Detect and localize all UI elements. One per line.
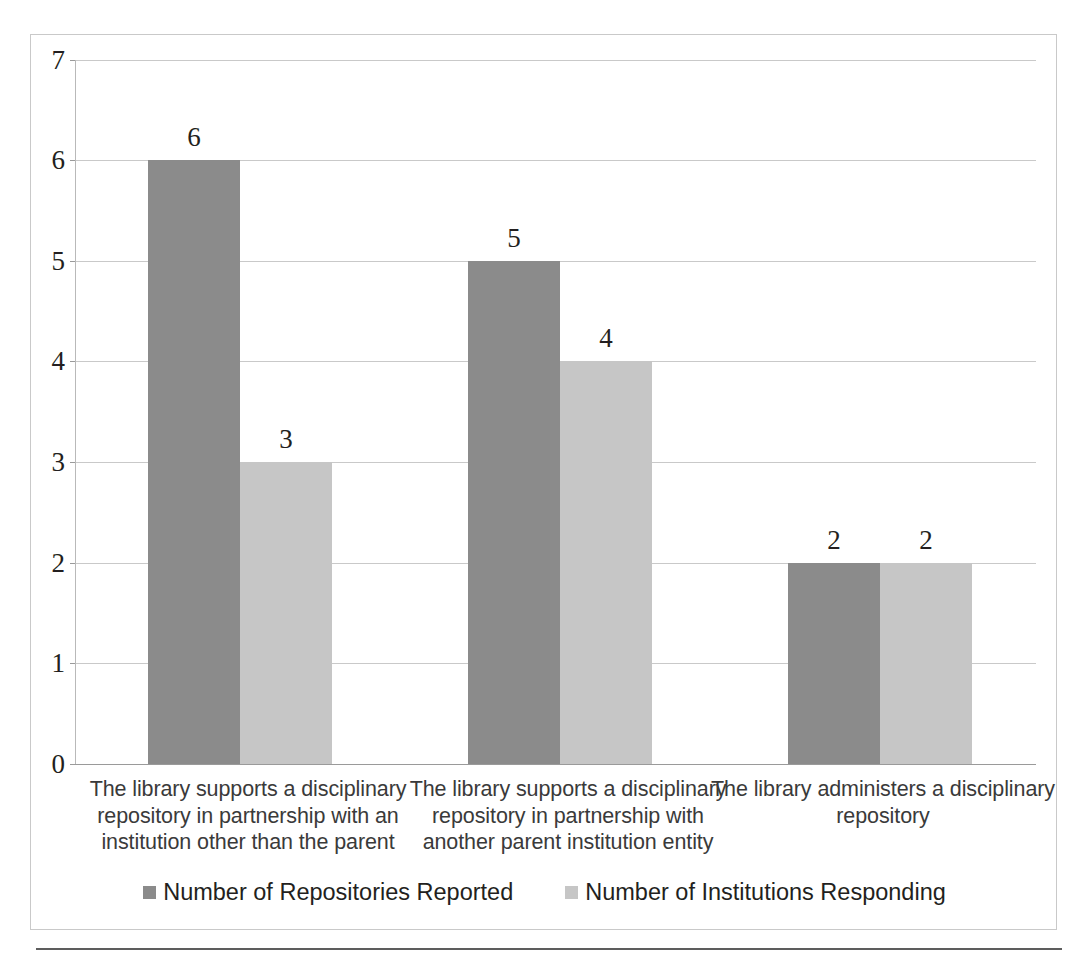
legend-label-institutions-responding: Number of Institutions Responding xyxy=(585,880,946,904)
category-label-1: The library supports a disciplinary repo… xyxy=(83,776,413,856)
page-bottom-rule xyxy=(36,948,1062,950)
bar-value-group-1-series-2: 3 xyxy=(240,426,332,453)
y-axis-label-5: 5 xyxy=(31,248,65,275)
category-label-2-line-3: another parent institution entity xyxy=(403,829,733,856)
category-label-2: The library supports a disciplinary repo… xyxy=(403,776,733,856)
category-label-3: The library administers a disciplinary r… xyxy=(703,776,1063,829)
bar-value-group-2-series-2: 4 xyxy=(560,325,652,352)
category-label-1-line-1: The library supports a disciplinary xyxy=(83,776,413,803)
bar-group-3-repositories-reported xyxy=(788,563,880,764)
dark-swatch-icon xyxy=(143,886,156,899)
legend-label-repositories-reported: Number of Repositories Reported xyxy=(163,880,513,904)
bar-value-group-2-series-1: 5 xyxy=(468,225,560,252)
y-tick-6 xyxy=(70,160,75,161)
category-label-1-line-3: institution other than the parent xyxy=(83,829,413,856)
y-tick-1 xyxy=(70,663,75,664)
bar-value-group-3-series-2: 2 xyxy=(880,527,972,554)
light-swatch-icon xyxy=(565,886,578,899)
category-label-1-line-2: repository in partnership with an xyxy=(83,803,413,830)
y-axis-line xyxy=(75,60,76,765)
bar-group-2-institutions-responding xyxy=(560,361,652,764)
gridline-7 xyxy=(75,60,1036,61)
y-tick-7 xyxy=(70,60,75,61)
y-axis-label-4: 4 xyxy=(31,348,65,375)
bar-group-3-institutions-responding xyxy=(880,563,972,764)
bar-group-1-repositories-reported xyxy=(148,160,240,764)
y-tick-2 xyxy=(70,563,75,564)
category-label-3-line-1: The library administers a disciplinary xyxy=(703,776,1063,803)
y-tick-0 xyxy=(70,764,75,765)
y-axis-label-6: 6 xyxy=(31,147,65,174)
chart-legend: Number of Repositories Reported Number o… xyxy=(31,880,1058,904)
y-tick-3 xyxy=(70,462,75,463)
y-tick-5 xyxy=(70,261,75,262)
y-tick-4 xyxy=(70,361,75,362)
bar-value-group-1-series-1: 6 xyxy=(148,124,240,151)
bar-value-group-3-series-1: 2 xyxy=(788,527,880,554)
chart-container: 7 6 5 4 3 2 1 0 6 3 5 4 2 2 The library … xyxy=(30,34,1057,930)
y-axis-label-7: 7 xyxy=(31,47,65,74)
category-label-2-line-1: The library supports a disciplinary xyxy=(403,776,733,803)
bar-group-1-institutions-responding xyxy=(240,462,332,764)
bar-group-2-repositories-reported xyxy=(468,261,560,764)
category-label-2-line-2: repository in partnership with xyxy=(403,803,733,830)
legend-item-institutions-responding[interactable]: Number of Institutions Responding xyxy=(565,880,946,904)
legend-item-repositories-reported[interactable]: Number of Repositories Reported xyxy=(143,880,513,904)
y-axis-label-0: 0 xyxy=(31,751,65,778)
y-axis-label-3: 3 xyxy=(31,449,65,476)
category-label-3-line-2: repository xyxy=(703,803,1063,830)
y-axis-label-1: 1 xyxy=(31,650,65,677)
x-axis-line xyxy=(71,764,1036,765)
y-axis-label-2: 2 xyxy=(31,550,65,577)
